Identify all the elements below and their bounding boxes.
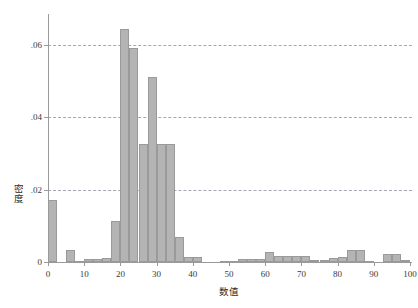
gridline-y	[48, 45, 412, 46]
histogram-bar	[111, 221, 120, 262]
histogram-bar	[157, 144, 166, 262]
x-tick-label: 80	[333, 269, 342, 279]
y-axis-line	[48, 14, 49, 262]
x-tick-label: 90	[369, 269, 378, 279]
x-tick-label: 10	[80, 269, 89, 279]
histogram-bar	[347, 250, 356, 262]
y-tick-label: .06	[16, 40, 42, 50]
x-tick-mark	[157, 262, 158, 266]
x-tick-mark	[265, 262, 266, 266]
x-tick-label: 70	[297, 269, 306, 279]
x-tick-mark	[84, 262, 85, 266]
histogram-bar	[356, 250, 365, 262]
histogram-bar	[392, 254, 401, 262]
histogram-bar	[148, 77, 157, 262]
x-tick-label: 100	[403, 269, 417, 279]
x-axis-line	[48, 262, 412, 263]
y-tick-mark	[44, 190, 48, 191]
y-tick-label: 0	[16, 257, 42, 267]
y-tick-mark	[44, 117, 48, 118]
x-tick-mark	[374, 262, 375, 266]
histogram-bar	[129, 48, 138, 262]
plot-area: 0102030405060708090100 0.02.04.06 数值 密度	[0, 0, 418, 308]
histogram-bar	[48, 200, 57, 262]
x-axis-title: 数值	[219, 284, 239, 298]
x-tick-label: 50	[225, 269, 234, 279]
x-tick-mark	[301, 262, 302, 266]
x-tick-label: 40	[188, 269, 197, 279]
histogram-bar	[120, 29, 129, 262]
x-tick-label: 30	[152, 269, 161, 279]
x-tick-mark	[120, 262, 121, 266]
gridline-y	[48, 117, 412, 118]
y-axis-title: 密度	[14, 184, 24, 204]
histogram-bar	[139, 144, 148, 262]
histogram-bar	[166, 144, 175, 262]
histogram-bar	[175, 237, 184, 262]
histogram-bar	[383, 254, 392, 262]
y-tick-mark	[44, 45, 48, 46]
x-tick-label: 20	[116, 269, 125, 279]
x-tick-mark	[48, 262, 49, 266]
x-tick-mark	[338, 262, 339, 266]
x-tick-label: 0	[46, 269, 51, 279]
x-tick-mark	[229, 262, 230, 266]
y-tick-mark	[44, 262, 48, 263]
x-tick-mark	[410, 262, 411, 266]
histogram-chart: 0102030405060708090100 0.02.04.06 数值 密度	[0, 0, 418, 308]
gridline-y	[48, 190, 412, 191]
x-tick-mark	[193, 262, 194, 266]
x-tick-label: 60	[261, 269, 270, 279]
histogram-bar	[66, 250, 75, 262]
y-tick-label: .04	[16, 112, 42, 122]
histogram-bar	[265, 252, 274, 262]
